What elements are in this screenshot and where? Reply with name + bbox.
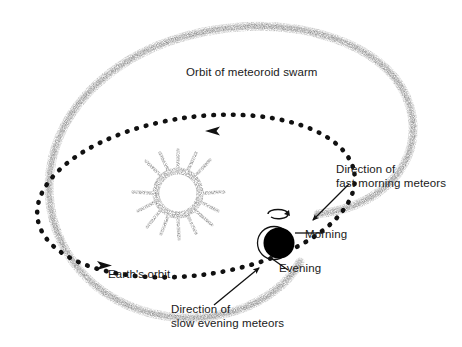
- fast-morning-meteors-line1: Direction of: [336, 163, 395, 175]
- slow-evening-meteors-label: Direction ofslow evening meteors: [171, 303, 284, 330]
- slow-evening-meteors-line1: Direction of: [171, 303, 230, 315]
- fast-morning-meteors-line2: fast morning meteors: [336, 177, 446, 189]
- morning-label: Morning: [305, 228, 347, 242]
- sun: [133, 150, 224, 239]
- fast-morning-meteors-label: Direction offast morning meteors: [336, 163, 446, 190]
- slow-evening-meteors-line2: slow evening meteors: [171, 317, 284, 329]
- earth-orbit-label: Earth's orbit: [108, 268, 170, 282]
- meteor-shower-diagram: Orbit of meteoroid swarm Direction offas…: [0, 0, 462, 347]
- swarm-orbit-label: Orbit of meteoroid swarm: [186, 66, 318, 80]
- evening-label: Evening: [279, 262, 321, 276]
- earth-orbit-arrow-top: [205, 127, 220, 136]
- earth-rotation-arrow: [268, 210, 290, 219]
